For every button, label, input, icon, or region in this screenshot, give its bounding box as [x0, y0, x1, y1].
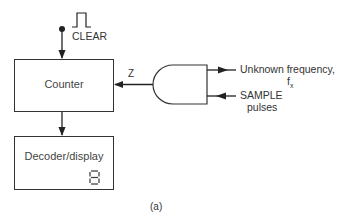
pulses-label: pulses — [247, 101, 277, 113]
sample-pulses-arrowhead — [216, 93, 226, 100]
sample-label: SAMPLE — [240, 89, 283, 101]
gate-output-label: Z — [128, 68, 134, 80]
block-diagram — [0, 0, 350, 219]
clear-label: CLEAR — [72, 30, 107, 42]
decoder-display-label: Decoder/display — [14, 150, 114, 162]
and-gate — [153, 65, 207, 104]
figure-caption: (a) — [150, 201, 162, 213]
unknown-frequency-arrowhead — [218, 67, 228, 74]
fx-subscript: x — [290, 82, 294, 89]
unknown-frequency-label: Unknown frequency, — [240, 63, 335, 75]
clear-pulse-icon — [72, 13, 91, 27]
unknown-frequency-symbol: fx — [287, 75, 293, 92]
counter-label: Counter — [14, 78, 114, 90]
